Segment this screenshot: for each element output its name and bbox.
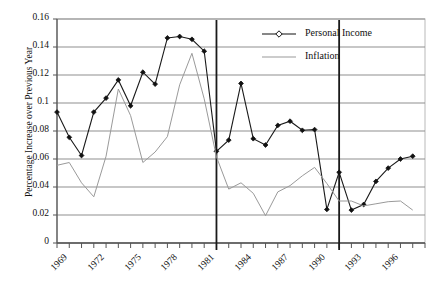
y-axis-tick-label: 0.1 (0, 96, 49, 106)
y-axis-tick-label: 0.14 (0, 40, 49, 50)
chart-container: Percentage Increase over Previous Year 0… (0, 0, 448, 295)
y-axis-tick-label: 0.16 (0, 12, 49, 22)
y-axis-tick-label: 0.12 (0, 68, 49, 78)
chart-plot (0, 0, 448, 295)
y-axis-tick-label: 0.02 (0, 208, 49, 218)
y-axis-tick-label: 0.04 (0, 180, 49, 190)
legend-label-inflation: Inflation (305, 50, 339, 61)
y-axis-tick-label: 0.06 (0, 152, 49, 162)
y-axis-tick-label: 0.08 (0, 124, 49, 134)
y-axis-tick-label: 0 (0, 236, 49, 246)
legend-label-personal-income: Personal Income (305, 27, 372, 38)
